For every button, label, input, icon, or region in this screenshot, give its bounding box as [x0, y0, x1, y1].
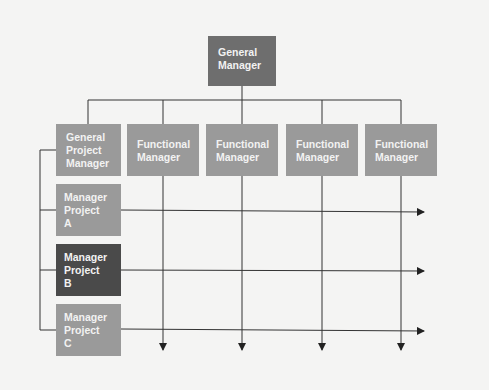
pma-label-3: A [64, 217, 121, 230]
pma-label-1: Manager [64, 191, 121, 204]
pma-label-2: Project [64, 204, 121, 217]
pmc-label-3: C [64, 337, 121, 350]
general-project-manager-box: General Project Manager [56, 124, 121, 176]
project-manager-b-box: Manager Project B [56, 244, 121, 296]
gpm-label-1: General [66, 131, 121, 144]
gpm-label-3: Manager [66, 157, 121, 170]
fm4-label-1: Functional [375, 138, 437, 151]
pmc-label-2: Project [64, 324, 121, 337]
functional-manager-box-4: Functional Manager [365, 124, 437, 176]
functional-manager-box-1: Functional Manager [127, 124, 199, 176]
general-manager-label-1: General [218, 46, 276, 59]
fm4-label-2: Manager [375, 151, 437, 164]
fm1-label-1: Functional [137, 138, 199, 151]
functional-manager-box-3: Functional Manager [286, 124, 358, 176]
pmb-label-1: Manager [64, 251, 121, 264]
fm3-label-2: Manager [296, 151, 358, 164]
fm2-label-1: Functional [216, 138, 278, 151]
pmb-label-3: B [64, 277, 121, 290]
project-manager-a-box: Manager Project A [56, 184, 121, 236]
general-manager-label-2: Manager [218, 59, 276, 72]
fm1-label-2: Manager [137, 151, 199, 164]
project-manager-c-box: Manager Project C [56, 304, 121, 356]
general-manager-box: General Manager [208, 36, 276, 86]
fm3-label-1: Functional [296, 138, 358, 151]
fm2-label-2: Manager [216, 151, 278, 164]
pmb-label-2: Project [64, 264, 121, 277]
gpm-label-2: Project [66, 144, 121, 157]
functional-manager-box-2: Functional Manager [206, 124, 278, 176]
pmc-label-1: Manager [64, 311, 121, 324]
